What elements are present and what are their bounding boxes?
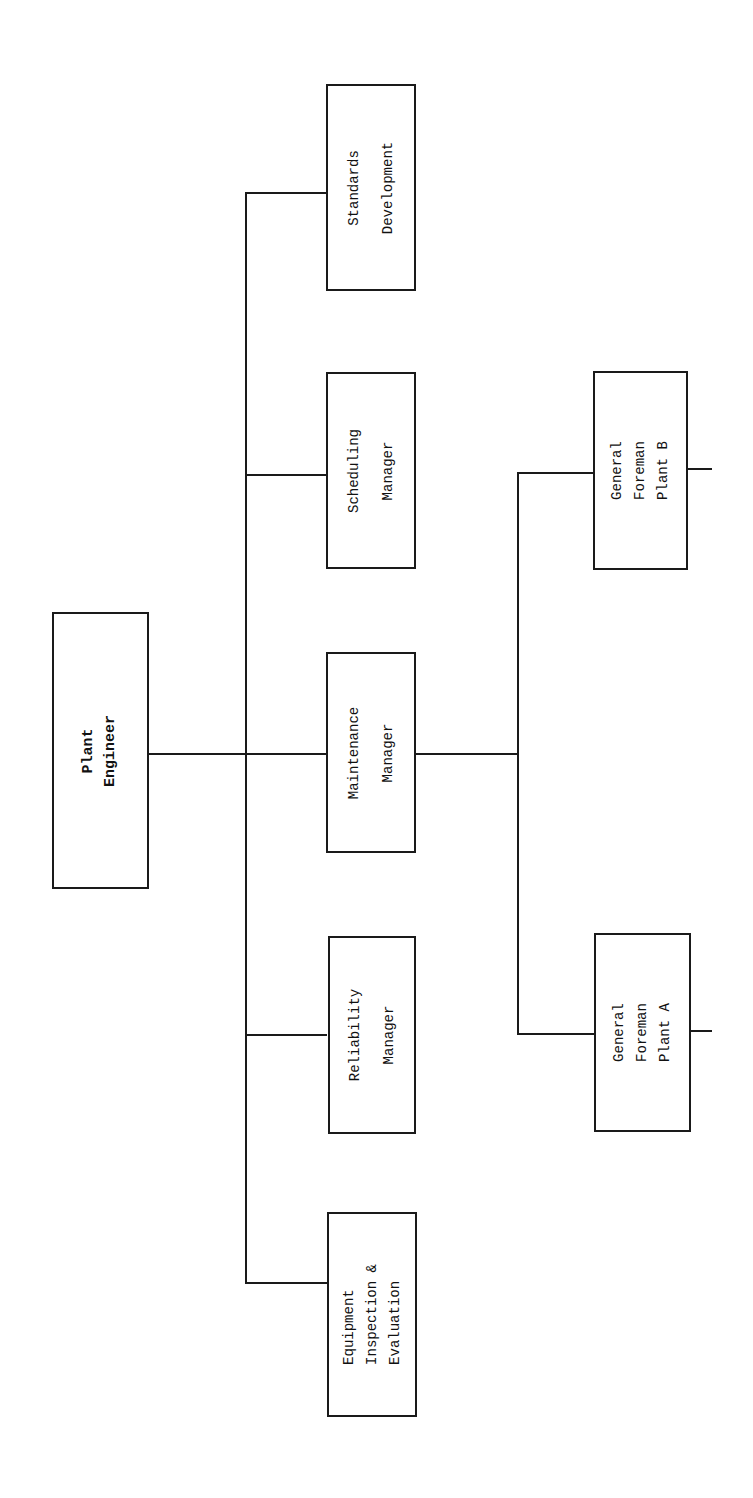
connector-plant-b-stub	[687, 468, 712, 470]
connector-trunk-to-reliability	[245, 1034, 327, 1036]
box-scheduling-manager: Scheduling Manager	[326, 372, 416, 569]
connector-plant-a-stub	[690, 1030, 712, 1032]
box-reliability-manager: Reliability Manager	[328, 936, 416, 1134]
label-scheduling-manager: Scheduling Manager	[337, 428, 405, 512]
label-general-foreman-plant-b: General Foreman Plant B	[606, 441, 675, 500]
box-general-foreman-plant-a: General Foreman Plant A	[594, 933, 691, 1132]
connector-level2-trunk	[517, 472, 519, 1035]
label-general-foreman-plant-a: General Foreman Plant A	[608, 1003, 677, 1062]
connector-trunk2-to-plant-b	[517, 472, 594, 474]
connector-maintenance-to-trunk2	[415, 753, 519, 755]
box-maintenance-manager: Maintenance Manager	[326, 652, 416, 853]
label-reliability-manager: Reliability Manager	[338, 989, 406, 1081]
connector-trunk-to-scheduling	[245, 474, 327, 476]
box-plant-engineer: Plant Engineer	[52, 612, 149, 889]
connector-trunk-to-maintenance	[245, 753, 327, 755]
label-standards-development: Standards Development	[337, 141, 405, 233]
box-equipment-inspection-evaluation: Equipment Inspection & Evaluation	[327, 1212, 417, 1417]
box-general-foreman-plant-b: General Foreman Plant B	[593, 371, 688, 570]
connector-trunk-to-standards	[245, 192, 327, 194]
label-equipment-inspection-evaluation: Equipment Inspection & Evaluation	[338, 1264, 407, 1365]
connector-root-to-trunk	[148, 753, 247, 755]
connector-trunk-to-equipment	[245, 1282, 327, 1284]
connector-trunk2-to-plant-a	[517, 1033, 595, 1035]
box-standards-development: Standards Development	[326, 84, 416, 291]
label-maintenance-manager: Maintenance Manager	[337, 706, 405, 798]
connector-level1-trunk	[245, 192, 247, 1284]
label-plant-engineer: Plant Engineer	[78, 714, 122, 786]
